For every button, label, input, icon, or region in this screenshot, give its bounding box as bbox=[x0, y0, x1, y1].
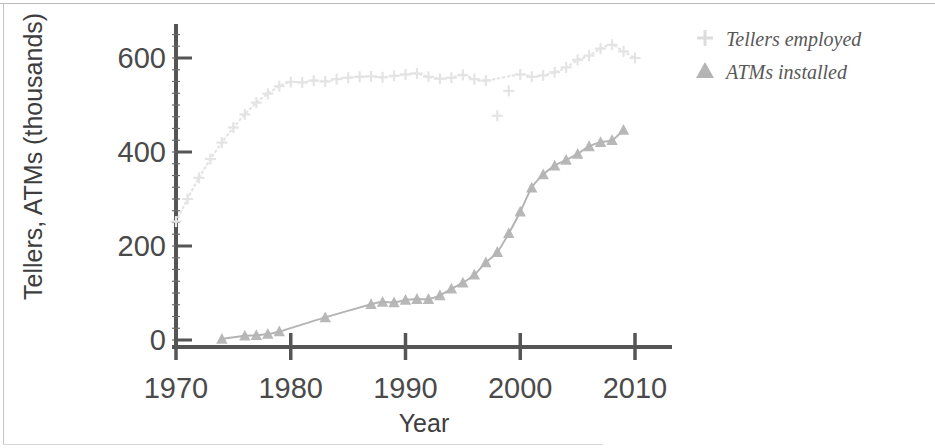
data-point bbox=[572, 54, 583, 65]
data-point bbox=[549, 67, 560, 78]
data-point bbox=[423, 71, 434, 82]
data-point bbox=[434, 73, 445, 84]
x-tick-label: 1990 bbox=[373, 372, 438, 404]
data-point bbox=[411, 68, 422, 79]
data-point bbox=[193, 172, 204, 183]
y-tick-label: 400 bbox=[118, 136, 166, 168]
data-point bbox=[584, 50, 595, 61]
legend-label-tellers-employed: Tellers employed bbox=[726, 28, 862, 51]
y-tick-labels: 0200400600 bbox=[118, 42, 166, 356]
data-point bbox=[354, 71, 365, 82]
plus-marker-icon bbox=[697, 30, 713, 46]
data-point bbox=[400, 69, 411, 80]
x-tick-label: 1970 bbox=[144, 372, 209, 404]
x-tick-labels: 19701980199020002010 bbox=[144, 372, 668, 404]
data-point bbox=[308, 75, 319, 86]
data-point bbox=[583, 140, 594, 151]
x-tick-label: 1980 bbox=[258, 372, 323, 404]
y-tick-label: 600 bbox=[118, 42, 166, 74]
data-point bbox=[595, 43, 606, 54]
legend-item-atms-installed: ATMs installed bbox=[696, 61, 848, 83]
data-point bbox=[618, 124, 629, 135]
data-point bbox=[469, 74, 480, 85]
data-point bbox=[320, 76, 331, 87]
data-point bbox=[503, 227, 514, 238]
data-point bbox=[434, 289, 445, 300]
series-atms-installed bbox=[216, 124, 629, 344]
data-point bbox=[457, 69, 468, 80]
data-point bbox=[274, 81, 285, 92]
series-tellers-employed bbox=[171, 39, 641, 227]
y-tick-label: 200 bbox=[118, 230, 166, 262]
data-point bbox=[630, 53, 641, 64]
data-point bbox=[572, 148, 583, 159]
data-point bbox=[446, 72, 457, 83]
data-point bbox=[457, 277, 468, 288]
data-point bbox=[366, 71, 377, 82]
data-point bbox=[503, 85, 514, 96]
data-point bbox=[549, 160, 560, 171]
data-point bbox=[182, 194, 193, 205]
data-point bbox=[285, 76, 296, 87]
data-point bbox=[480, 75, 491, 86]
triangle-marker-icon bbox=[696, 62, 714, 78]
data-point bbox=[389, 70, 400, 81]
data-point bbox=[343, 72, 354, 83]
data-point bbox=[560, 154, 571, 165]
data-point bbox=[297, 77, 308, 88]
chart-legend: Tellers employed ATMs installed bbox=[696, 28, 862, 83]
data-point bbox=[538, 70, 549, 81]
data-point bbox=[515, 206, 526, 217]
chart-plot-area: 0200400600 19701980199020002010 Tellers,… bbox=[0, 0, 935, 448]
legend-item-tellers-employed: Tellers employed bbox=[697, 28, 862, 51]
x-tick-label: 2000 bbox=[488, 372, 553, 404]
data-point bbox=[561, 62, 572, 73]
data-point bbox=[606, 134, 617, 145]
data-point bbox=[262, 88, 273, 99]
data-point bbox=[171, 216, 182, 227]
x-tick-label: 2010 bbox=[603, 372, 668, 404]
data-point bbox=[446, 283, 457, 294]
x-axis-title: Year bbox=[399, 409, 450, 437]
y-axis-title: Tellers, ATMs (thousands) bbox=[19, 13, 47, 300]
data-point bbox=[492, 110, 503, 121]
data-point bbox=[607, 39, 618, 50]
data-point bbox=[515, 69, 526, 80]
legend-label-atms-installed: ATMs installed bbox=[724, 61, 848, 83]
data-point bbox=[331, 74, 342, 85]
data-point bbox=[526, 71, 537, 82]
chart-figure: 0200400600 19701980199020002010 Tellers,… bbox=[0, 0, 935, 448]
y-tick-label: 0 bbox=[150, 324, 166, 356]
data-point bbox=[377, 72, 388, 83]
